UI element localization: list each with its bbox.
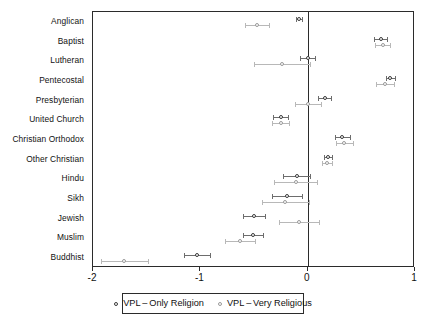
error-bar-cap	[321, 102, 322, 107]
error-bar-cap	[394, 82, 395, 87]
error-bar-cap	[101, 259, 102, 264]
error-bar-cap	[309, 200, 310, 205]
legend-label: VPL – Very Religious	[227, 298, 312, 309]
data-point	[381, 43, 385, 47]
y-axis-label-anglican: Anglican	[51, 16, 84, 26]
y-axis-label-hindu: Hindu	[62, 173, 84, 183]
x-axis-tick-label: 0	[304, 272, 310, 284]
y-axis-label-pentecostal: Pentecostal	[39, 75, 84, 85]
data-point	[325, 161, 329, 165]
y-axis-label-christian-orthodox: Christian Orthodox	[12, 134, 84, 144]
legend-marker-icon	[114, 302, 118, 306]
y-axis-label-united-church: United Church	[29, 114, 84, 124]
error-bar-cap	[310, 62, 311, 67]
y-axis-label-muslim: Muslim	[57, 232, 84, 242]
error-bar-cap	[254, 62, 255, 67]
error-bar-cap	[225, 239, 226, 244]
chart-legend: VPL – Only ReligionVPL – Very Religious	[122, 293, 304, 314]
x-axis-tick-label: -2	[88, 272, 97, 284]
data-point	[280, 62, 284, 66]
error-bar-cap	[353, 141, 354, 146]
data-point	[283, 200, 287, 204]
y-axis-label-lutheran: Lutheran	[50, 55, 84, 65]
data-point	[255, 23, 259, 27]
error-bar-cap	[272, 121, 273, 126]
error-bar-cap	[317, 180, 318, 185]
error-bar-cap	[148, 259, 149, 264]
data-point	[122, 259, 126, 263]
x-axis: -2-101	[92, 267, 414, 289]
legend-marker-icon	[218, 302, 222, 306]
error-bar-cap	[375, 43, 376, 48]
error-bar-cap	[269, 23, 270, 28]
error-bar-cap	[289, 121, 290, 126]
error-bar-cap	[279, 220, 280, 225]
legend-item-1[interactable]: VPL – Only Religion	[114, 298, 204, 309]
data-point	[306, 102, 310, 106]
plot-area	[92, 11, 414, 267]
data-point	[238, 239, 242, 243]
error-bar-cap	[376, 82, 377, 87]
y-axis-label-baptist: Baptist	[58, 36, 84, 46]
x-axis-tick-label: -1	[195, 272, 204, 284]
x-axis-tick-mark	[414, 267, 415, 271]
legend-label: VPL – Only Religion	[123, 298, 204, 309]
data-point	[294, 180, 298, 184]
error-bar-cap	[274, 180, 275, 185]
y-axis-label-sikh: Sikh	[67, 193, 84, 203]
error-bar-cap	[322, 161, 323, 166]
x-axis-tick-mark	[307, 267, 308, 271]
legend-item-2[interactable]: VPL – Very Religious	[218, 298, 312, 309]
x-axis-tick-label: 1	[411, 272, 417, 284]
x-axis-tick-mark	[199, 267, 200, 271]
data-point	[342, 141, 346, 145]
data-point	[297, 220, 301, 224]
y-axis-category-labels: AnglicanBaptistLutheranPentecostalPresby…	[0, 11, 88, 267]
error-bar-cap	[295, 102, 296, 107]
y-axis-label-jewish: Jewish	[58, 213, 84, 223]
error-bar-cap	[390, 43, 391, 48]
error-bar-cap	[255, 239, 256, 244]
y-axis-label-presbyterian: Presbyterian	[36, 95, 84, 105]
error-bar-cap	[319, 220, 320, 225]
x-axis-tick-mark	[92, 267, 93, 271]
series-vpl-very-religious	[93, 12, 413, 266]
data-point	[279, 121, 283, 125]
y-axis-label-other-christian: Other Christian	[26, 154, 84, 164]
error-bar-cap	[245, 23, 246, 28]
chart-canvas: AnglicanBaptistLutheranPentecostalPresby…	[0, 0, 425, 322]
error-bar-cap	[332, 161, 333, 166]
error-bar-cap	[262, 200, 263, 205]
y-axis-label-buddhist: Buddhist	[51, 252, 84, 262]
plot-inner	[93, 12, 413, 266]
data-point	[383, 82, 387, 86]
error-bar-cap	[336, 141, 337, 146]
